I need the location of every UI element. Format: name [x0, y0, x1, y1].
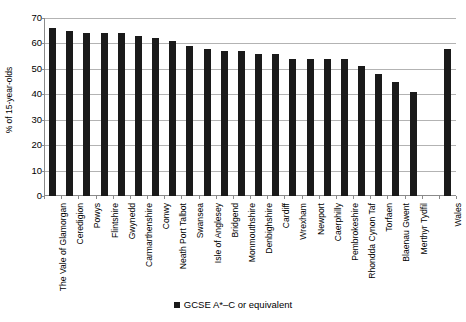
- y-axis-tick-label: 10: [12, 166, 42, 176]
- bar: [410, 92, 417, 196]
- x-axis-category-label: Conwy: [160, 200, 173, 292]
- x-axis-tick-mark: [147, 196, 148, 199]
- x-axis-tick-mark: [78, 196, 79, 199]
- x-axis-category-label: Blaenau Gwent: [400, 200, 413, 292]
- chart-legend: GCSE A*–C or equivalent: [0, 300, 466, 310]
- bar: [152, 38, 159, 196]
- x-axis-tick-mark: [199, 196, 200, 199]
- bar: [341, 59, 348, 196]
- bar: [444, 49, 451, 196]
- x-axis-tick-mark: [96, 196, 97, 199]
- x-axis-tick-mark: [164, 196, 165, 199]
- x-axis-tick-mark: [181, 196, 182, 199]
- x-axis-tick-mark: [284, 196, 285, 199]
- y-axis-tick-label: 20: [12, 140, 42, 150]
- x-axis-category-label: Merthyr Tydfil: [418, 200, 431, 292]
- y-axis-tick-label: 50: [12, 64, 42, 74]
- x-axis-category-label: Wales: [452, 200, 465, 292]
- bar: [135, 36, 142, 196]
- x-axis-tick-mark: [353, 196, 354, 199]
- y-axis-tick-label: 0: [12, 191, 42, 201]
- x-axis-tick-mark: [439, 196, 440, 199]
- bar: [255, 54, 262, 196]
- bar: [66, 31, 73, 196]
- x-axis-tick-mark: [216, 196, 217, 199]
- x-axis-tick-mark: [113, 196, 114, 199]
- bar: [358, 66, 365, 196]
- y-axis-tick-label: 60: [12, 38, 42, 48]
- x-axis-category-label: Monmouthshire: [246, 200, 259, 292]
- legend-swatch-icon: [174, 302, 180, 308]
- x-axis-tick-mark: [250, 196, 251, 199]
- x-axis-tick-mark: [267, 196, 268, 199]
- bar-chart: % of 15-year-olds 706050403020100 The Va…: [0, 0, 466, 322]
- x-axis-tick-mark: [336, 196, 337, 199]
- x-axis-category-label: Powys: [91, 200, 104, 292]
- bar: [169, 41, 176, 196]
- x-axis-category-label: Denbighshire: [263, 200, 276, 292]
- y-axis-tick-label: 70: [12, 13, 42, 23]
- x-axis-category-label: Newport: [315, 200, 328, 292]
- bars-layer: [44, 18, 456, 196]
- bar: [221, 51, 228, 196]
- x-axis-category-label: The Vale of Glamorgan: [57, 200, 70, 292]
- x-axis-labels: The Vale of GlamorganCeredigionPowysFlin…: [44, 200, 456, 292]
- y-axis-tick-label: 30: [12, 115, 42, 125]
- x-axis-category-label: Torfaen: [383, 200, 396, 292]
- bar: [324, 59, 331, 196]
- x-axis-tick-mark: [405, 196, 406, 199]
- x-axis-tick-mark: [387, 196, 388, 199]
- x-axis-tick-mark: [130, 196, 131, 199]
- bar: [118, 33, 125, 196]
- y-axis-ticks: 706050403020100: [8, 18, 42, 196]
- legend-entry-label: GCSE A*–C or equivalent: [184, 300, 292, 310]
- bar: [392, 82, 399, 196]
- x-axis-tick-mark: [422, 196, 423, 199]
- x-axis-tick-mark: [302, 196, 303, 199]
- bar: [272, 54, 279, 196]
- x-axis-tick-mark: [456, 196, 457, 199]
- x-axis-category-label: Ceredigion: [74, 200, 87, 292]
- bar: [101, 33, 108, 196]
- bar: [307, 59, 314, 196]
- x-axis-tick-mark: [370, 196, 371, 199]
- x-axis-category-label: Bridgend: [229, 200, 242, 292]
- plot-area: [44, 18, 456, 196]
- y-axis-tick-label: 40: [12, 89, 42, 99]
- bar: [49, 28, 56, 196]
- x-axis-tick-mark: [44, 196, 45, 199]
- x-axis-category-label: Swansea: [194, 200, 207, 292]
- x-axis-category-label: Carmarthenshire: [143, 200, 156, 292]
- x-axis-category-label: Neath Port Talbot: [177, 200, 190, 292]
- bar: [238, 51, 245, 196]
- x-axis-tick-mark: [61, 196, 62, 199]
- x-axis-tick-mark: [319, 196, 320, 199]
- x-axis-category-label: Pembrokeshire: [349, 200, 362, 292]
- bar: [289, 59, 296, 196]
- x-axis-category-label: Isle of Anglesey: [212, 200, 225, 292]
- x-axis-category-label: Flintshire: [109, 200, 122, 292]
- bar: [375, 74, 382, 196]
- x-axis-tick-mark: [233, 196, 234, 199]
- bar: [204, 49, 211, 196]
- bar: [186, 46, 193, 196]
- x-axis-category-label: Rhondda Cynon Taf: [366, 200, 379, 292]
- bar: [83, 33, 90, 196]
- x-axis-category-label: Cardiff: [280, 200, 293, 292]
- x-axis-category-label: Gwynedd: [126, 200, 139, 292]
- x-axis-category-label: Wrexham: [297, 200, 310, 292]
- x-axis-category-label: Caerphilly: [332, 200, 345, 292]
